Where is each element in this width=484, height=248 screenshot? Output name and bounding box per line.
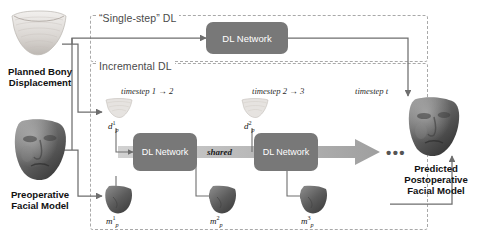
mesh-face-timestep-2 — [206, 185, 238, 215]
variable-label-m1: m1p — [106, 214, 119, 228]
variable-m1-sub: p — [116, 221, 119, 228]
mesh-face-timestep-1 — [102, 185, 134, 215]
mesh-bony-timestep-2 — [240, 97, 270, 119]
dl-network-single-step-label: DL Network — [222, 33, 271, 44]
shared-weights-label: shared — [207, 147, 232, 157]
mesh-bony-timestep-1 — [104, 97, 134, 119]
dl-network-step-2-label: DL Network — [263, 147, 310, 157]
caption-predicted-line2: Postoperative — [394, 174, 478, 186]
variable-label-m3: m3p — [301, 214, 314, 228]
variable-m3-sub: p — [311, 221, 314, 228]
caption-preoperative-facial-model-line2: Facial Model — [2, 200, 78, 212]
mesh-preoperative-facial-model — [10, 118, 70, 182]
caption-planned-bony-displacement-line1: Planned Bony — [2, 66, 78, 78]
ellipsis-more-timesteps: ••• — [386, 145, 406, 160]
variable-d2-sub: p — [252, 126, 255, 133]
caption-predicted-line3: Facial Model — [394, 185, 478, 197]
mesh-face-timestep-3 — [297, 185, 329, 215]
mesh-predicted-postoperative-facial-model — [405, 96, 463, 158]
timestep-label-3: timestep t — [355, 86, 388, 96]
dl-network-single-step[interactable]: DL Network — [206, 22, 288, 54]
variable-d1-sub: p — [116, 126, 119, 133]
caption-planned-bony-displacement-line2: Displacement — [2, 77, 78, 89]
mesh-planned-bony-displacement — [8, 10, 70, 58]
variable-label-d1: d1p — [108, 119, 119, 133]
variable-m2-sub: p — [220, 221, 223, 228]
timestep-label-2: timestep 2 → 3 — [252, 86, 304, 96]
caption-predicted-line1: Predicted — [394, 163, 478, 175]
dl-network-step-1-label: DL Network — [142, 147, 189, 157]
dl-network-step-1[interactable]: DL Network — [133, 133, 197, 171]
variable-label-d2: d2p — [244, 119, 255, 133]
timestep-label-1: timestep 1 → 2 — [121, 86, 173, 96]
figure-canvas: “Single-step” DL Incremental DL — [0, 0, 484, 248]
variable-label-m2: m2p — [210, 214, 223, 228]
caption-preoperative-facial-model-line1: Preoperative — [2, 189, 78, 201]
dl-network-step-2[interactable]: DL Network — [254, 133, 318, 171]
